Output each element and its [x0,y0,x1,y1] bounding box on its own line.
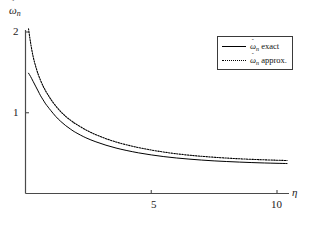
legend-swatch-solid-line-icon [222,43,246,51]
y-tick-label-1: 1 [13,106,19,118]
legend-tilde-icon-2: ˜ [252,52,254,58]
x-tick-label-5: 5 [151,198,157,210]
x-axis-title: η [292,186,297,198]
legend: ˜ωn exact ˜ωn approx. [217,36,293,70]
y-tick-label-2: 2 [13,25,19,37]
subscript-n: n [17,9,21,18]
legend-text-approx: approx. [259,55,287,65]
y-axis-title: ˜ωn [9,4,21,18]
plot-canvas [0,0,310,225]
tilde-accent: ˜ [11,0,14,7]
legend-item-approx: ˜ωn approx. [222,55,287,67]
chart-figure: ˜ωn η 2 1 5 10 ˜ωn exact ˜ωn approx. [0,0,310,225]
legend-item-exact: ˜ωn exact [222,41,279,53]
legend-text-exact: exact [259,41,279,51]
x-tick-label-10: 10 [271,198,282,210]
legend-swatch-dotted-line-icon [222,57,246,65]
legend-tilde-icon: ˜ [252,38,254,44]
legend-label-exact: ˜ωn exact [250,42,279,52]
legend-label-approx: ˜ωn approx. [250,56,287,66]
